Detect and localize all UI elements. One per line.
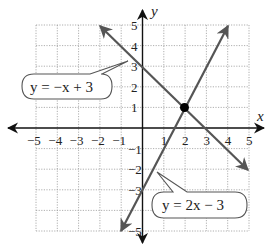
y-tick-label: 4	[131, 39, 138, 54]
y-tick-label: −5	[128, 224, 142, 239]
x-axis-label: x	[256, 108, 264, 124]
x-tick-label: −3	[70, 133, 84, 148]
callout-label-line2: y = 2x − 3	[162, 197, 224, 213]
y-tick-label: −1	[128, 142, 142, 157]
x-tick-label: −1	[112, 133, 126, 148]
callout-line2: y = 2x − 3	[152, 172, 247, 218]
x-tick-label: 5	[246, 133, 253, 148]
x-tick-label: −5	[27, 133, 41, 148]
y-tick-label: 2	[131, 80, 138, 95]
intersection-point	[180, 103, 189, 112]
y-tick-label: 5	[131, 18, 138, 33]
x-tick-label: −2	[91, 133, 105, 148]
y-tick-label: 1	[131, 100, 138, 115]
callout-label-line1: y = −x + 3	[30, 79, 93, 95]
x-tick-label: 2	[182, 133, 189, 148]
x-tick-label: 4	[225, 133, 232, 148]
x-tick-label: 3	[203, 133, 210, 148]
y-tick-label: −2	[128, 162, 142, 177]
x-tick-label: −4	[48, 133, 62, 148]
y-axis-label: y	[149, 3, 158, 19]
coordinate-graph: x y −5−4−3−2−112345 54321−1−2−3−5 y = −x…	[0, 0, 273, 249]
